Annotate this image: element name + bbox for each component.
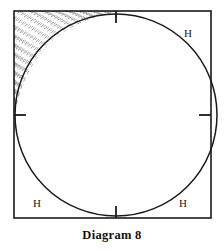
diagram-figure: H H H Diagram 8 — [0, 0, 224, 250]
figure-caption: Diagram 8 — [0, 228, 224, 243]
label-h-top-right: H — [184, 28, 192, 39]
label-h-bottom-right: H — [179, 198, 187, 209]
label-h-bottom-left: H — [33, 198, 41, 209]
